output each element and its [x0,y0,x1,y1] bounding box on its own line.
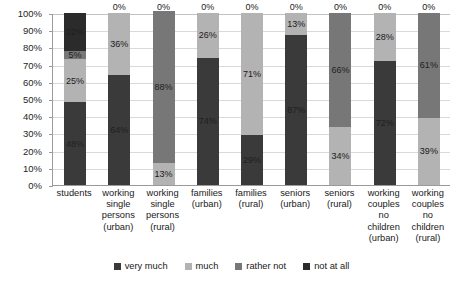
x-axis-label-line: (rural) [229,199,273,210]
bar-data-label: 87% [287,106,305,115]
legend-item[interactable]: not at all [303,262,349,271]
y-axis-tick-label: 80% [23,44,42,54]
x-axis-label-line: couples [406,199,450,210]
bar-data-label: 39% [420,147,438,156]
bar-stack: 0%13%88%0% [153,14,175,185]
bar-data-label: 0% [334,3,347,12]
bar-data-label: 28% [376,33,394,42]
x-axis-label-line: (rural) [317,199,361,210]
bar-data-label: 36% [110,40,128,49]
bar-column: 0%34%66%0% [318,14,362,185]
x-axis-category-label: families(rural) [229,188,273,210]
y-axis-tick-label: 0% [28,181,42,191]
bar-data-label: 0% [113,3,126,12]
bar-data-label: 66% [331,66,349,75]
x-axis-label-line: working [362,188,406,199]
x-axis-label-line: children [362,222,406,233]
legend-swatch-icon [185,263,192,270]
x-axis-label-line: couples [362,199,406,210]
x-axis-category-label: families(urban) [185,188,229,210]
bar-data-label: 0% [290,3,303,12]
legend-label: not at all [314,262,349,271]
bar-data-label: 13% [155,170,173,179]
legend-label: much [196,262,219,271]
bar-stack: 72%28%0%0% [374,14,396,185]
x-axis-label-line: (urban) [96,222,140,233]
bar-column: 0%13%88%0% [141,14,185,185]
bar-data-label: 5% [69,51,82,60]
bar-data-label: 0% [201,3,214,12]
x-axis-label-line: persons [140,210,184,221]
legend-item[interactable]: very much [114,262,168,271]
x-axis-label-line: single [96,199,140,210]
bar-data-label: 25% [66,77,84,86]
legend-label: rather not [246,262,286,271]
chart-legend: very muchmuchrather notnot at all [0,262,463,271]
legend-swatch-icon [235,263,242,270]
bar-stack: 87%13%0%0% [285,14,307,185]
legend-label: very much [125,262,168,271]
x-axis-label-line: families [229,188,273,199]
y-axis-tick-label: 40% [23,112,42,122]
y-axis-tick-label: 100% [18,9,42,19]
x-axis-label-line: (rural) [140,222,184,233]
y-axis-tick-label: 50% [23,95,42,105]
x-axis-label-line: no [406,210,450,221]
y-axis-tick-label: 30% [23,130,42,140]
x-axis-category-label: workingcouplesnochildren(rural) [406,188,450,244]
bar-data-label: 0% [245,3,258,12]
bar-series-container: 48%25%5%22%64%36%0%0%0%13%88%0%74%26%0%0… [53,14,450,185]
bar-column: 74%26%0%0% [186,14,230,185]
x-axis-label-line: families [185,188,229,199]
bar-data-label: 74% [199,117,217,126]
bar-column: 48%25%5%22% [53,14,97,185]
bar-stack: 0%39%61%0% [418,14,440,185]
bar-data-label: 48% [66,140,84,149]
legend-swatch-icon [114,263,121,270]
bar-column: 64%36%0%0% [97,14,141,185]
bar-data-label: 26% [199,31,217,40]
bar-data-label: 22% [66,28,84,37]
x-axis-label-line: (urban) [273,199,317,210]
x-axis-category-label: workingcouplesnochildren(urban) [362,188,406,244]
x-axis-category-label: seniors(urban) [273,188,317,210]
x-axis-category-label: seniors(rural) [317,188,361,210]
y-axis-tick-label: 20% [23,147,42,157]
bar-data-label: 0% [422,3,435,12]
x-axis-labels: studentsworkingsinglepersons(urban)worki… [52,188,450,254]
x-axis-label-line: students [52,188,96,199]
bar-data-label: 34% [331,152,349,161]
bar-stack: 29%71%0%0% [241,14,263,185]
x-axis-label-line: working [406,188,450,199]
stacked-bar-chart: 0%10%20%30%40%50%60%70%80%90%100% 48%25%… [0,0,463,289]
x-axis-label-line: seniors [273,188,317,199]
bar-column: 87%13%0%0% [274,14,318,185]
y-axis-tick-mark [49,186,53,187]
legend-item[interactable]: much [185,262,219,271]
bar-data-label: 0% [378,3,391,12]
bar-stack: 0%34%66%0% [329,14,351,185]
bar-data-label: 13% [287,20,305,29]
bar-column: 0%39%61%0% [407,14,451,185]
x-axis-label-line: (rural) [406,233,450,244]
bar-data-label: 88% [155,83,173,92]
x-axis-label-line: (urban) [362,233,406,244]
bar-data-label: 0% [157,3,170,12]
x-axis-label-line: children [406,222,450,233]
legend-item[interactable]: rather not [235,262,286,271]
bar-data-label: 61% [420,61,438,70]
x-axis-category-label: workingsinglepersons(urban) [96,188,140,233]
bar-stack: 64%36%0%0% [108,14,130,185]
bar-column: 29%71%0%0% [230,14,274,185]
bar-data-label: 71% [243,70,261,79]
x-axis-label-line: seniors [317,188,361,199]
x-axis-label-line: working [140,188,184,199]
bar-column: 72%28%0%0% [363,14,407,185]
y-axis-tick-label: 70% [23,61,42,71]
legend-swatch-icon [303,263,310,270]
y-axis-tick-label: 60% [23,78,42,88]
y-axis-labels: 0%10%20%30%40%50%60%70%80%90%100% [0,14,48,186]
x-axis-label-line: (urban) [185,199,229,210]
bar-stack: 48%25%5%22% [64,14,86,185]
x-axis-label-line: persons [96,210,140,221]
